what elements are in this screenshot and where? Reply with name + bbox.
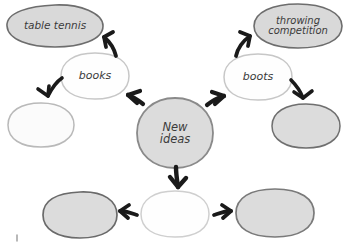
node-shape-table-tennis[interactable] [7,5,103,47]
node-shape-left-middle-blank[interactable] [8,103,74,147]
arrow-center-to-books [128,91,143,104]
node-shape-bottom-left-blank[interactable] [43,192,117,238]
arrow-center-to-boots [207,92,224,105]
diagram-shapes-layer [0,0,348,244]
arrow-books-to-left-middle-blank [38,78,62,96]
node-shape-boots[interactable] [224,54,292,100]
node-shape-throwing-competition[interactable] [254,4,342,48]
arrow-boots-to-right-middle-blank [291,80,312,98]
node-shape-bottom-center-blank[interactable] [141,191,209,237]
node-shape-bottom-right-blank[interactable] [236,189,314,237]
arrow-bottom-center-to-bottom-right [214,205,231,218]
arrow-center-to-bottom-center-blank [170,167,186,187]
arrow-books-to-table-tennis [104,32,116,56]
arrow-bottom-center-to-bottom-left [120,205,137,218]
node-shape-right-middle-blank[interactable] [272,104,340,148]
node-shape-books[interactable] [61,53,129,99]
arrow-boots-to-throwing-competition [236,32,250,56]
mind-map-canvas: table tennis books throwing competition … [0,0,348,244]
node-shape-center[interactable] [137,98,213,168]
